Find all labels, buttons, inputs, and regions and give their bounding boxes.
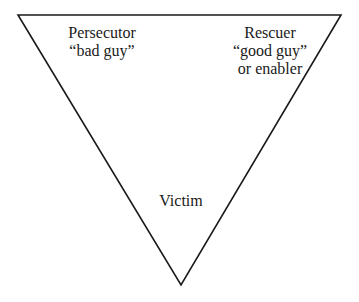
persecutor-label: Persecutor “bad guy” xyxy=(52,24,152,60)
rescuer-label: Rescuer “good guy” or enabler xyxy=(220,24,320,78)
victim-title: Victim xyxy=(131,192,231,210)
rescuer-subtitle: “good guy” xyxy=(220,42,320,60)
rescuer-extra: or enabler xyxy=(220,60,320,78)
rescuer-title: Rescuer xyxy=(220,24,320,42)
persecutor-subtitle: “bad guy” xyxy=(52,42,152,60)
victim-label: Victim xyxy=(131,192,231,210)
drama-triangle-diagram: Persecutor “bad guy” Rescuer “good guy” … xyxy=(0,0,359,302)
persecutor-title: Persecutor xyxy=(52,24,152,42)
